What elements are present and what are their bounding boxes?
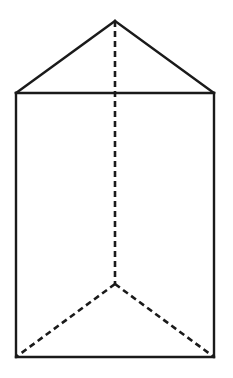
hidden-edge-bottom_back-to-bottom_front_right: [115, 284, 214, 357]
triangular-prism-figure: [0, 0, 233, 378]
prism-diagram: [0, 0, 233, 378]
edge-apex_top_back-to-top_front_right: [115, 21, 214, 93]
edge-apex_top_back-to-top_front_left: [16, 21, 115, 93]
hidden-edge-bottom_back-to-bottom_front_left: [16, 284, 115, 357]
